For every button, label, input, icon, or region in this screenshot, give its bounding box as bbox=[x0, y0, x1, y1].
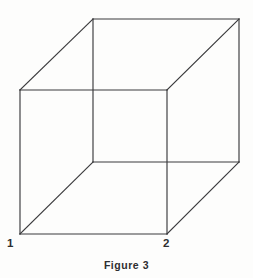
edge-depth-top-right bbox=[167, 19, 239, 90]
figure-page: 1 2 Figure 3 bbox=[0, 0, 253, 278]
vertex-label-2: 2 bbox=[163, 237, 169, 250]
wireframe-cube-diagram bbox=[0, 0, 253, 278]
vertex-label-1: 1 bbox=[7, 237, 13, 250]
edge-depth-bottom-left bbox=[20, 162, 93, 234]
edge-depth-bottom-right bbox=[167, 162, 239, 234]
figure-caption: Figure 3 bbox=[0, 259, 253, 271]
edge-depth-top-left bbox=[20, 19, 93, 90]
